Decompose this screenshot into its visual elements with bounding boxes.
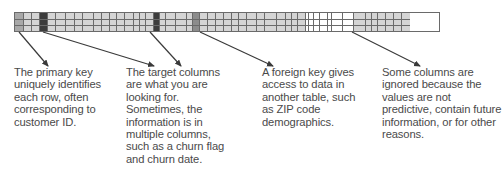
foreign-key-note: A foreign key gives access to data in an… [262, 66, 366, 128]
target-columns-note: The target columns are what you are look… [126, 66, 234, 165]
target-column-arrow-1 [43, 32, 154, 66]
primary-key-arrow [19, 32, 48, 66]
ignored-columns-arrow [352, 32, 420, 66]
foreign-key-arrow [200, 32, 273, 66]
primary-key-note: The primary key uniquely identifies each… [14, 66, 122, 128]
target-column-arrow-2 [150, 32, 181, 66]
ignored-columns-note: Some columns are ignored because the val… [382, 66, 502, 140]
